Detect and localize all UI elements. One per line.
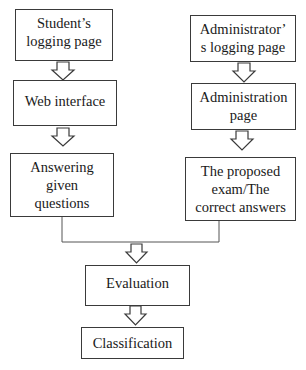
block-arrow-down-icon [125,306,146,325]
block-arrow-down-icon [233,63,255,82]
block-arrow-down-icon [52,128,74,146]
node-administration-page: Administration page [191,83,296,130]
node-label: Evaluation [106,274,169,292]
node-proposed-exam-correct-answers: The proposed exam/The correct answers [185,157,296,221]
node-label: Administrator’ s logging page [200,20,287,56]
node-answering-given-questions: Answering given questions [10,153,114,217]
node-label: Student’s logging page [26,14,101,50]
node-evaluation: Evaluation [85,265,190,306]
block-arrow-down-icon [126,244,147,263]
block-arrow-down-icon [231,131,253,150]
node-label: Classification [93,334,173,352]
node-label: Answering given questions [30,158,94,212]
block-arrow-down-icon [52,62,74,80]
node-classification: Classification [81,327,184,359]
node-label: Administration page [200,88,288,124]
node-label: The proposed exam/The correct answers [195,162,286,216]
node-label: Web interface [25,92,106,110]
node-administrator-logging-page: Administrator’ s logging page [190,15,296,62]
node-web-interface: Web interface [13,80,117,126]
node-student-logging-page: Student’s logging page [15,9,113,61]
